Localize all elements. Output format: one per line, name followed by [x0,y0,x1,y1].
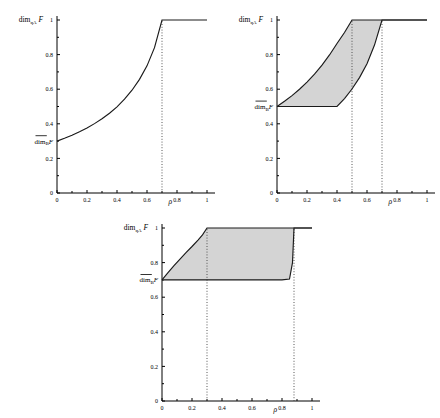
y-axis-label: dimqA F [239,15,264,25]
lower-dim-italic: F [268,103,274,111]
chart-panel-2: 00.20.40.60.8100.20.40.60.81dimqA FρdimB… [220,0,440,210]
chart-svg-3: 00.20.40.60.8100.20.40.60.81dimqA FρdimB… [100,206,330,418]
x-tick-label: 1 [311,405,314,411]
y-tick-label: 0.8 [266,52,274,58]
x-tick-label: 0.6 [143,197,151,203]
x-tick-label: 0 [161,405,164,411]
lower-dim-main: dim [254,103,265,111]
y-tick-label: 1 [270,17,273,23]
y-tick-label: 0.8 [151,260,159,266]
y-tick-label: 0.2 [151,364,159,370]
x-tick-label: 0 [56,197,59,203]
y-axis-label: dimqA F [124,223,149,233]
x-tick-label: 0.4 [333,197,341,203]
x-tick-label: 0.8 [278,405,286,411]
y-tick-label: 0 [50,190,53,196]
x-tick-label: 1 [426,197,429,203]
x-axis-label: ρ [387,197,392,206]
y-tick-label: 0.8 [46,52,54,58]
chart-1-content: 00.20.40.60.8100.20.40.60.81dimqA FρdimB… [19,15,215,206]
x-tick-label: 0.2 [303,197,311,203]
y-axis-label-main: dim [239,15,251,24]
y-tick-label: 1 [155,225,158,231]
chart-3-content: 00.20.40.60.8100.20.40.60.81dimqA FρdimB… [124,223,320,414]
x-tick-label: 0.2 [188,405,196,411]
y-tick-label: 0.6 [46,86,54,92]
y-axis-label-italic: F [142,223,149,232]
chart-2-content: 00.20.40.60.8100.20.40.60.81dimqA FρdimB… [239,15,435,206]
y-tick-label: 0.6 [266,86,274,92]
y-tick-label: 0.2 [266,156,274,162]
lower-dim-label: dimBF [254,103,273,112]
x-tick-label: 1 [206,197,209,203]
y-tick-label: 0.4 [266,121,274,127]
lower-dim-italic: F [48,138,54,146]
lower-dim-main: dim [139,276,150,284]
y-tick-label: 0.4 [151,329,159,335]
x-tick-label: 0.4 [113,197,121,203]
curve-dim_qA F [57,20,207,141]
lower-dim-label: dimBF [139,276,158,285]
x-tick-label: 0.2 [83,197,91,203]
x-axis-label: ρ [272,405,277,414]
y-axis-label: dimqA F [19,15,44,25]
x-tick-label: 0 [276,197,279,203]
y-axis-label-italic: F [257,15,264,24]
y-axis-label-italic: F [37,15,44,24]
lower-dim-main: dim [34,138,45,146]
y-tick-label: 1 [50,17,53,23]
y-tick-label: 0 [270,190,273,196]
y-axis-label-main: dim [19,15,31,24]
x-tick-label: 0.8 [173,197,181,203]
x-tick-label: 0.6 [248,405,256,411]
x-axis-label: ρ [167,197,172,206]
chart-svg-1: 00.20.40.60.8100.20.40.60.81dimqA FρdimB… [0,0,220,210]
x-tick-label: 0.6 [363,197,371,203]
chart-svg-2: 00.20.40.60.8100.20.40.60.81dimqA FρdimB… [220,0,440,210]
x-tick-label: 0.4 [218,405,226,411]
y-tick-label: 0.2 [46,156,54,162]
y-tick-label: 0.4 [46,121,54,127]
y-tick-label: 0 [155,398,158,404]
x-tick-label: 0.8 [393,197,401,203]
y-axis-label-main: dim [124,223,136,232]
chart-panel-3: 00.20.40.60.8100.20.40.60.81dimqA FρdimB… [100,206,330,418]
lower-dim-label: dimBF [34,138,53,147]
lower-dim-italic: F [153,276,159,284]
chart-panel-1: 00.20.40.60.8100.20.40.60.81dimqA FρdimB… [0,0,220,210]
y-tick-label: 0.6 [151,294,159,300]
